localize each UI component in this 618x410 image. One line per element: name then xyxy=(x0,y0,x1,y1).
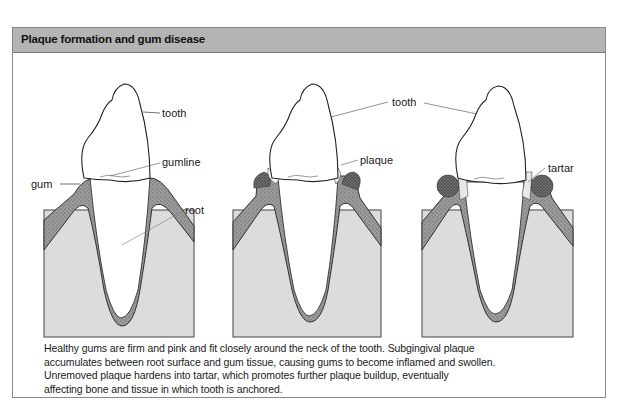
caption-line: Unremoved plaque hardens into tartar, wh… xyxy=(44,369,584,383)
figure-caption: Healthy gums are firm and pink and fit c… xyxy=(44,342,584,396)
caption-line: affecting bone and tissue in which tooth… xyxy=(44,383,584,397)
panel-healthy: tooth gumline gum root xyxy=(31,84,204,337)
label-tooth-shared: tooth xyxy=(392,96,416,108)
label-root: root xyxy=(185,204,204,216)
panel-tartar: tartar xyxy=(422,86,574,337)
panel-plaque: plaque xyxy=(233,84,393,337)
label-gumline: gumline xyxy=(162,156,201,168)
label-gum: gum xyxy=(31,178,52,190)
caption-line: Healthy gums are firm and pink and fit c… xyxy=(44,342,584,356)
shared-tooth-label: tooth xyxy=(331,96,482,117)
label-tooth: tooth xyxy=(162,107,186,119)
caption-line: accumulates between root surface and gum… xyxy=(44,356,584,370)
label-plaque: plaque xyxy=(360,154,393,166)
label-tartar: tartar xyxy=(548,162,574,174)
